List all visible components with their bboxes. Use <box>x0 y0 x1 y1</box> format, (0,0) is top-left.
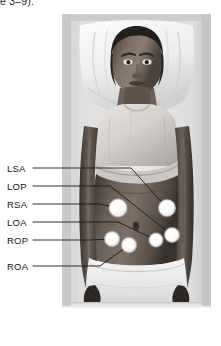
callout-label-loa: LOA <box>7 218 27 228</box>
callout-label-roa: ROA <box>7 262 28 272</box>
callout-label-rop: ROP <box>7 236 28 246</box>
callout-label-lop: LOP <box>7 182 27 192</box>
callout-label-lsa: LSA <box>7 164 26 174</box>
callout-label-rsa: RSA <box>7 200 27 210</box>
callout-label-column: LSA LOP RSA LOA ROP ROA <box>0 0 221 346</box>
figure-panel: e 3–9). <box>0 0 221 346</box>
